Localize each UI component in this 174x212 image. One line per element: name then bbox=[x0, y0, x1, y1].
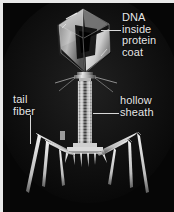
phage-micrograph-figure: DNA inside protein coat hollow sheath ta… bbox=[0, 0, 174, 212]
label-dna-inside-protein-coat: DNA inside protein coat bbox=[122, 12, 156, 58]
micrograph-photo: DNA inside protein coat hollow sheath ta… bbox=[3, 3, 174, 212]
hollow-sheath-label-leader-line bbox=[93, 113, 119, 114]
tail-fiber-label-leader-line bbox=[30, 115, 31, 144]
label-tail-fiber: tail fiber bbox=[13, 94, 35, 117]
label-hollow-sheath: hollow sheath bbox=[120, 95, 154, 118]
phage-illustration: DNA inside protein coat hollow sheath ta… bbox=[3, 3, 174, 212]
hollow-sheath-tail bbox=[78, 81, 92, 143]
dna-label-leader-line bbox=[101, 30, 121, 31]
